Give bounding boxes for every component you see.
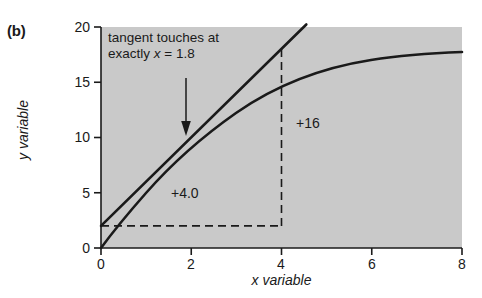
y-axis-title-variable: y variable	[15, 100, 31, 160]
y-tick-label-15: 15	[56, 74, 90, 90]
tangent-callout-variable: x	[154, 46, 161, 61]
x-axis-ticks	[101, 248, 462, 255]
run-label: +4.0	[171, 185, 199, 201]
x-tick-label-4: 4	[266, 256, 296, 272]
y-axis-ticks	[94, 27, 101, 248]
x-axis-title-variable: x variable	[252, 272, 312, 288]
y-axis-title: y variable	[15, 80, 31, 180]
tangent-callout-text: tangent touches at exactly x = 1.8	[108, 30, 219, 62]
x-axis-title: x variable	[101, 272, 462, 288]
y-tick-label-10: 10	[56, 129, 90, 145]
x-tick-label-6: 6	[357, 256, 387, 272]
y-tick-label-20: 20	[56, 19, 90, 35]
y-tick-label-5: 5	[56, 185, 90, 201]
x-tick-label-0: 0	[86, 256, 116, 272]
tangent-callout-line-1: tangent touches at	[108, 30, 219, 46]
x-tick-label-2: 2	[176, 256, 206, 272]
y-tick-label-0: 0	[56, 240, 90, 256]
tangent-callout-line-2: exactly x = 1.8	[108, 46, 219, 62]
tangent-callout-suffix: = 1.8	[161, 46, 195, 61]
x-tick-label-8: 8	[447, 256, 477, 272]
rise-label: +16	[296, 115, 320, 131]
tangent-callout-prefix: exactly	[108, 46, 154, 61]
figure-panel-b: (b)	[0, 0, 482, 298]
